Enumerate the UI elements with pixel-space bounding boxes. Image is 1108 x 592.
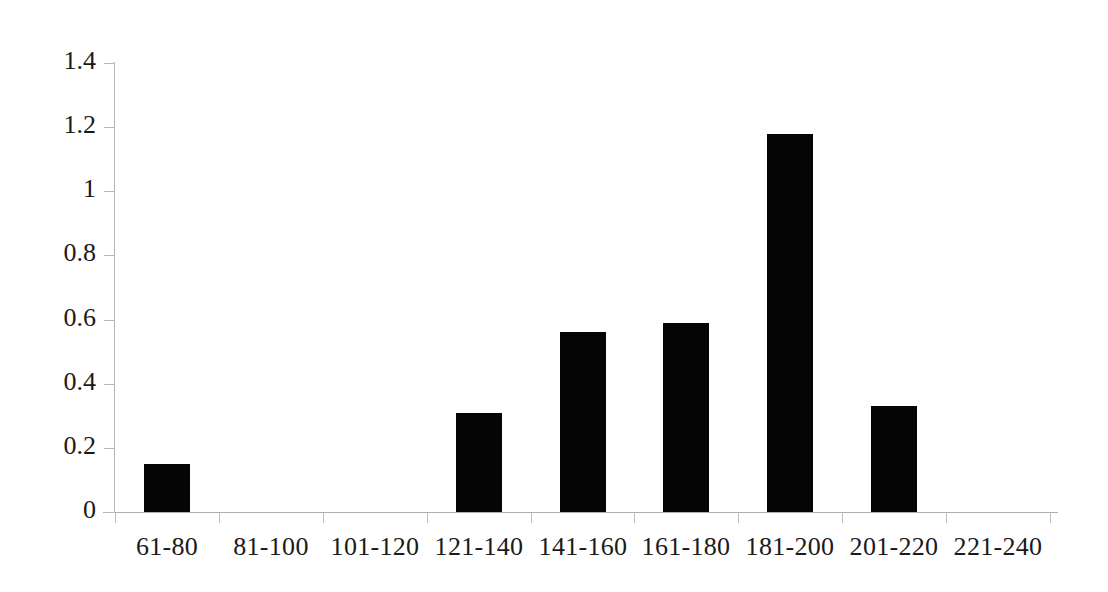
bar <box>663 323 709 512</box>
x-axis-tick-label: 181-200 <box>738 532 842 562</box>
x-axis-tick <box>842 513 843 523</box>
x-axis-tick <box>115 513 116 523</box>
bar <box>767 134 813 512</box>
bar <box>456 413 502 512</box>
x-axis-tick-label: 201-220 <box>842 532 946 562</box>
bar <box>144 464 190 512</box>
x-axis-tick <box>219 513 220 523</box>
x-axis-tick-label: 101-120 <box>323 532 427 562</box>
x-axis-tick-label: 121-140 <box>427 532 531 562</box>
bar <box>871 406 917 512</box>
bar <box>560 332 606 512</box>
y-axis-tick <box>104 512 115 513</box>
bars-layer <box>0 0 1108 512</box>
x-axis-tick <box>427 513 428 523</box>
x-axis-tick <box>634 513 635 523</box>
x-axis-tick <box>1050 513 1051 523</box>
x-axis-tick-label: 61-80 <box>115 532 219 562</box>
x-axis-line <box>103 512 1058 513</box>
x-axis-tick <box>531 513 532 523</box>
x-axis-tick-label: 161-180 <box>634 532 738 562</box>
x-axis-tick-label: 81-100 <box>219 532 323 562</box>
bar-chart: 00.20.40.60.811.21.4 61-8081-100101-1201… <box>0 0 1108 592</box>
x-axis-tick <box>738 513 739 523</box>
x-axis-tick <box>323 513 324 523</box>
x-axis-tick <box>946 513 947 523</box>
x-axis-tick-label: 221-240 <box>946 532 1050 562</box>
x-axis-tick-label: 141-160 <box>531 532 635 562</box>
